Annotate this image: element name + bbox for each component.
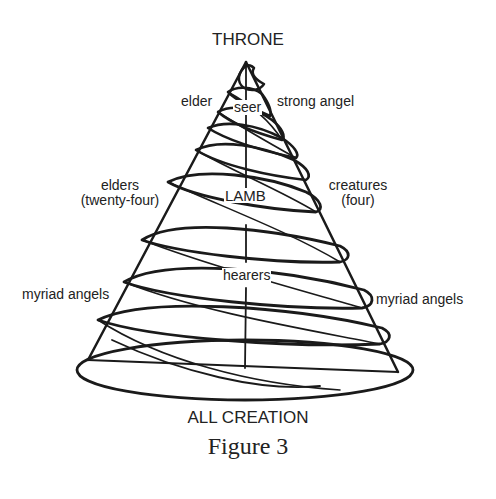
creatures-label: creatures (four) (320, 178, 396, 208)
elders-label-line2: (twenty-four) (64, 193, 176, 208)
elders-label-line1: elders (64, 178, 176, 193)
hearers-label: hearers (222, 268, 271, 283)
seer-label: seer (233, 100, 262, 115)
lamb-label: LAMB (224, 188, 267, 203)
throne-label: THRONE (0, 32, 496, 47)
creatures-label-line2: (four) (320, 193, 396, 208)
myriad-angels-right-label: myriad angels (376, 292, 463, 307)
cone-base-line (88, 360, 398, 372)
myriad-angels-left-label: myriad angels (22, 287, 109, 302)
figure-caption: Figure 3 (0, 433, 496, 460)
strong-angel-label: strong angel (276, 94, 355, 109)
creatures-label-line1: creatures (320, 178, 396, 193)
central-axis-bottom (245, 288, 246, 368)
elder-label: elder (180, 94, 213, 109)
cone-spiral-figure: THRONE elder seer strong angel elders (t… (0, 0, 496, 499)
elders-label: elders (twenty-four) (64, 178, 176, 208)
tip-flame (239, 65, 264, 90)
all-creation-label: ALL CREATION (0, 410, 496, 425)
